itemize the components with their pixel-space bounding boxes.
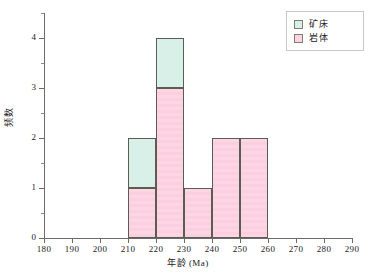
y-minor-tick-mark (41, 213, 44, 214)
histogram-figure: 180190200210220230240250260270280290 012… (0, 0, 376, 276)
legend-item-kuangchuang[interactable]: 矿床 (294, 17, 357, 31)
y-tick-label: 0 (20, 233, 36, 242)
legend-swatch-icon-yanti (294, 34, 303, 43)
legend-item-yanti[interactable]: 岩体 (294, 31, 357, 45)
y-tick-mark (39, 138, 44, 139)
x-axis-line (44, 238, 353, 239)
x-tick-mark (352, 239, 353, 243)
bar-segment-yanti (184, 188, 212, 238)
y-tick-label: 4 (20, 33, 36, 42)
legend-swatch-icon-kuangchuang (294, 20, 303, 29)
x-tick-mark (100, 239, 101, 243)
x-tick-mark (184, 239, 185, 243)
y-tick-mark (39, 38, 44, 39)
y-minor-tick-mark (41, 163, 44, 164)
bar-segment-kuangchuang (156, 38, 184, 88)
x-axis-title: 年龄 (Ma) (0, 256, 376, 269)
legend-label-kuangchuang: 矿床 (309, 19, 329, 29)
x-tick-mark (128, 239, 129, 243)
y-tick-mark (39, 238, 44, 239)
y-axis-line (44, 13, 45, 239)
y-tick-label: 2 (20, 133, 36, 142)
bar-segment-yanti (212, 138, 240, 238)
legend-label-yanti: 岩体 (309, 33, 329, 43)
x-tick-mark (44, 239, 45, 243)
y-minor-tick-mark (41, 63, 44, 64)
y-tick-label: 1 (20, 183, 36, 192)
bar-segment-yanti (128, 188, 156, 238)
y-tick-label: 3 (20, 83, 36, 92)
x-tick-mark (268, 239, 269, 243)
x-tick-mark (156, 239, 157, 243)
x-tick-mark (72, 239, 73, 243)
y-minor-tick-mark (41, 113, 44, 114)
bar-segment-kuangchuang (128, 138, 156, 188)
legend: 矿床 岩体 (286, 11, 364, 51)
y-minor-tick-mark (41, 13, 44, 14)
x-tick-mark (212, 239, 213, 243)
y-axis-title: 频数 (2, 92, 15, 142)
bar-segment-yanti (156, 88, 184, 238)
x-tick-mark (324, 239, 325, 243)
x-tick-label: 290 (332, 244, 372, 255)
x-tick-mark (296, 239, 297, 243)
x-tick-mark (240, 239, 241, 243)
y-tick-mark (39, 188, 44, 189)
bar-segment-yanti (240, 138, 268, 238)
y-tick-mark (39, 88, 44, 89)
